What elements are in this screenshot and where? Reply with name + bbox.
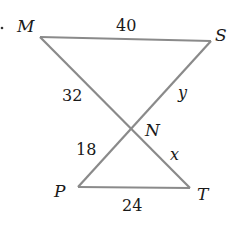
segment-label-MN: 32: [62, 86, 82, 105]
margin-dot: [1, 27, 4, 30]
segment-label-NP: 18: [76, 140, 96, 159]
diagram-svg: M S N P T 40 32 y 18 x 24: [0, 0, 233, 229]
vertex-label-T: T: [197, 184, 210, 204]
vertex-label-P: P: [53, 181, 66, 201]
segment-label-PT: 24: [122, 196, 142, 215]
segment-MT: [40, 37, 190, 188]
segment-MS: [40, 37, 211, 41]
similar-triangles-diagram: M S N P T 40 32 y 18 x 24: [0, 0, 233, 229]
segment-label-MS: 40: [116, 16, 136, 35]
vertex-label-N: N: [144, 120, 161, 140]
segment-label-NT: x: [170, 145, 179, 164]
vertex-label-M: M: [16, 16, 35, 36]
segment-SP: [78, 41, 211, 187]
vertex-label-S: S: [215, 25, 227, 45]
segment-PT: [78, 187, 190, 188]
segment-label-SN: y: [177, 83, 188, 102]
